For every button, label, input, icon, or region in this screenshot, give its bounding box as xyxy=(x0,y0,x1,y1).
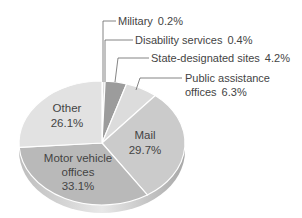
label-other-value: 26.1% xyxy=(51,117,84,129)
label-military: Military0.2% xyxy=(118,15,183,27)
label-public-assistance: Public assistance xyxy=(185,72,270,84)
label-public-assistance-offices: offices6.3% xyxy=(185,86,247,98)
label-motor-vehicle: Motor vehicle xyxy=(44,152,112,164)
label-motor-vehicle-offices: offices xyxy=(61,166,94,178)
pie-slices xyxy=(19,81,185,205)
label-state-designated-sites: State-designated sites4.2% xyxy=(151,52,290,64)
pie-chart: Military0.2% Disability services0.4% Sta… xyxy=(0,0,302,218)
label-disability-services: Disability services0.4% xyxy=(135,34,253,46)
pie-slice-other xyxy=(19,81,102,147)
label-mail-value: 29.7% xyxy=(129,144,162,156)
label-other: Other xyxy=(53,102,82,114)
label-motor-vehicle-value: 33.1% xyxy=(62,180,95,192)
label-mail: Mail xyxy=(134,129,155,141)
